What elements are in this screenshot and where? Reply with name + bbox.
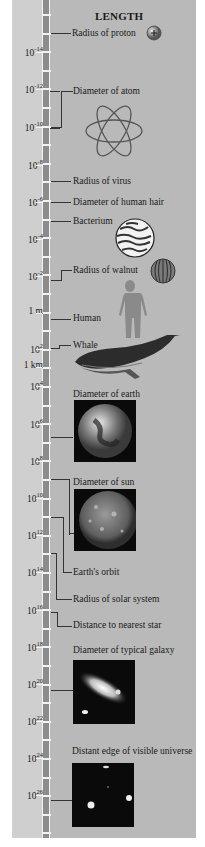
ruler-segment-divider — [43, 70, 51, 72]
connector-solar-system — [51, 553, 57, 600]
ruler-segment-divider — [43, 144, 51, 146]
label-distant-edge-of-universe: Distant edge of visible universe — [72, 746, 192, 756]
log-scale-ruler — [42, 0, 50, 838]
label-radius-of-walnut: Radius of walnut — [73, 265, 138, 275]
scale-tick-mark — [36, 202, 42, 203]
label-human: Human — [73, 313, 101, 323]
human-silhouette-icon — [112, 280, 148, 338]
label-diameter-of-human-hair: Diameter of human hair — [73, 197, 164, 207]
ruler-segment-divider — [43, 405, 51, 407]
ruler-segment-divider — [43, 498, 51, 500]
label-radius-of-solar-system: Radius of solar system — [73, 594, 159, 604]
label-diameter-of-earth: Diameter of earth — [73, 389, 140, 399]
ruler-segment-divider — [43, 367, 51, 369]
ruler-segment-divider — [43, 88, 51, 90]
ruler-segment-divider — [43, 386, 51, 388]
ruler-segment-divider — [43, 553, 51, 555]
scale-tick-mark — [36, 461, 42, 462]
sun-photo — [74, 489, 136, 551]
whale-icon — [72, 335, 184, 385]
ruler-segment-divider — [43, 479, 51, 481]
scale-tick-mark — [36, 795, 42, 796]
scale-tick-mark — [36, 313, 42, 314]
connector-nearest-star-end — [57, 626, 72, 627]
ruler-segment-divider — [43, 460, 51, 462]
connector-galaxy — [51, 690, 73, 691]
connector-hair — [51, 202, 71, 203]
walnut-icon — [150, 258, 176, 284]
scale-tick-mark — [36, 386, 42, 387]
ruler-segment-divider — [43, 349, 51, 351]
scale-tick-mark — [36, 498, 42, 499]
scale-tick-mark — [36, 276, 42, 277]
universe-photo — [72, 763, 134, 827]
label-distance-to-nearest-star: Distance to nearest star — [73, 620, 161, 630]
connector-atom — [50, 91, 60, 129]
ruler-segment-divider — [43, 535, 51, 537]
ruler-segment-divider — [43, 777, 51, 779]
scale-tick-mark — [36, 367, 42, 368]
connector-walnut-high — [61, 270, 72, 281]
connector-whale-high — [59, 345, 71, 349]
ruler-segment-divider — [43, 163, 51, 165]
ruler-segment-divider — [43, 516, 51, 518]
label-earths-orbit: Earth's orbit — [73, 567, 119, 577]
ruler-segment-divider — [43, 423, 51, 425]
ruler-segment-divider — [43, 721, 51, 723]
ruler-segment-divider — [43, 739, 51, 741]
diagram-title: LENGTH — [95, 10, 143, 22]
scale-tick-mark — [36, 535, 42, 536]
ruler-segment-divider — [43, 646, 51, 648]
scale-tick-mark — [36, 127, 42, 128]
ruler-segment-divider — [43, 758, 51, 760]
ruler-segment-divider — [43, 33, 51, 35]
label-bacterium: Bacterium — [73, 216, 113, 226]
ruler-segment-divider — [43, 219, 51, 221]
bacterium-icon — [114, 217, 156, 259]
connector-earth-orbit-end — [63, 572, 72, 573]
connector-universe — [51, 800, 73, 801]
scale-tick-mark — [36, 721, 42, 722]
ruler-segment-divider — [43, 293, 51, 295]
ruler-segment-divider — [43, 181, 51, 183]
label-radius-of-proton: Radius of proton — [72, 28, 136, 38]
scale-tick-mark — [36, 89, 42, 90]
ruler-segment-divider — [43, 832, 51, 834]
ruler-segment-divider — [43, 200, 51, 202]
ruler-segment-divider — [43, 330, 51, 332]
earth-photo — [74, 400, 136, 462]
ruler-segment-divider — [43, 274, 51, 276]
connector-atom-bottom — [51, 127, 62, 128]
connector-walnut-low — [51, 280, 61, 281]
ruler-segment-divider — [43, 814, 51, 816]
galaxy-photo — [73, 660, 135, 724]
scale-tick-mark — [36, 424, 42, 425]
ruler-segment-divider — [43, 684, 51, 686]
label-radius-of-virus: Radius of virus — [73, 176, 131, 186]
scale-tick-mark — [36, 52, 42, 53]
ruler-segment-divider — [43, 51, 51, 53]
label-diameter-of-atom: Diameter of atom — [73, 86, 140, 96]
ruler-segment-divider — [43, 237, 51, 239]
proton-icon — [146, 25, 162, 41]
ruler-segment-divider — [43, 256, 51, 258]
ruler-segment-divider — [43, 572, 51, 574]
connector-solar-system-end — [56, 599, 72, 600]
connector-whale-low — [51, 348, 59, 349]
scale-tick-mark — [36, 572, 42, 573]
scale-tick-mark — [36, 758, 42, 759]
ruler-segment-divider — [43, 702, 51, 704]
scale-tick-mark — [36, 610, 42, 611]
ruler-segment-divider — [43, 442, 51, 444]
connector-bacterium — [51, 221, 71, 222]
connector-nearest-star — [51, 612, 58, 627]
ruler-segment-divider — [43, 665, 51, 667]
scale-tick-mark — [36, 684, 42, 685]
connector-virus — [51, 181, 71, 182]
ruler-segment-divider — [43, 591, 51, 593]
ruler-segment-divider — [43, 312, 51, 314]
connector-human — [51, 319, 71, 320]
ruler-segment-divider — [43, 14, 51, 16]
ruler-segment-divider — [43, 609, 51, 611]
label-diameter-of-sun: Diameter of sun — [73, 477, 134, 487]
